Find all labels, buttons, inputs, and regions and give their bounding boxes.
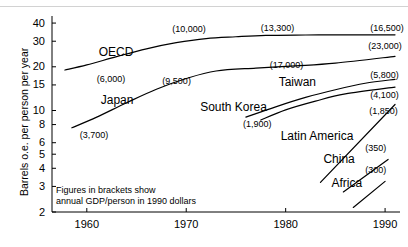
- y-tick-label: 10: [33, 105, 45, 116]
- x-tick-label: 1980: [264, 219, 308, 230]
- series-label-japan: Japan: [101, 94, 134, 106]
- y-tick-label: 40: [33, 18, 45, 29]
- gdp-annotation: (350): [365, 144, 386, 153]
- gdp-annotation: (9,500): [162, 77, 191, 86]
- x-tick-label: 1970: [164, 219, 208, 230]
- gdp-annotation: (23,000): [368, 42, 402, 51]
- y-tick-label: 8: [39, 119, 45, 130]
- y-tick-label: 15: [33, 79, 45, 90]
- gdp-annotation: (13,300): [261, 24, 295, 33]
- gdp-annotation: (1,850): [369, 107, 398, 116]
- y-tick-label: 2: [39, 207, 45, 218]
- gdp-annotation: (5,800): [370, 71, 399, 80]
- series-label-africa: Africa: [331, 177, 362, 189]
- gdp-annotation: (17,000): [270, 61, 304, 70]
- y-tick-label: 20: [33, 61, 45, 72]
- y-tick-label: 5: [39, 149, 45, 160]
- gdp-annotation: (3,700): [80, 131, 109, 140]
- series-label-south-korea: South Korea: [200, 101, 267, 113]
- gdp-annotation: (6,000): [97, 75, 126, 84]
- chart-canvas: [0, 0, 408, 247]
- y-tick-label: 3: [39, 181, 45, 192]
- series-line-japan: [72, 56, 395, 127]
- y-tick-label: 30: [33, 36, 45, 47]
- gdp-annotation: (300): [365, 166, 386, 175]
- y-tick-label: 6: [39, 137, 45, 148]
- y-tick-label: 4: [39, 163, 45, 174]
- chart-footnote: Figures in brackets show annual GDP/pers…: [56, 185, 196, 207]
- x-tick-label: 1990: [363, 219, 407, 230]
- series-label-latin-america: Latin America: [281, 130, 354, 142]
- series-label-oecd: OECD: [99, 46, 134, 58]
- x-tick-label: 1960: [65, 219, 109, 230]
- gdp-annotation: (1,900): [243, 120, 272, 129]
- series-label-china: China: [323, 153, 354, 165]
- gdp-annotation: (4,100): [370, 91, 399, 100]
- gdp-annotation: (16,500): [370, 24, 404, 33]
- series-label-taiwan: Taiwan: [279, 76, 316, 88]
- gdp-annotation: (10,000): [172, 25, 206, 34]
- chart-figure: Barrels o.e. per person per year 4030201…: [0, 0, 408, 247]
